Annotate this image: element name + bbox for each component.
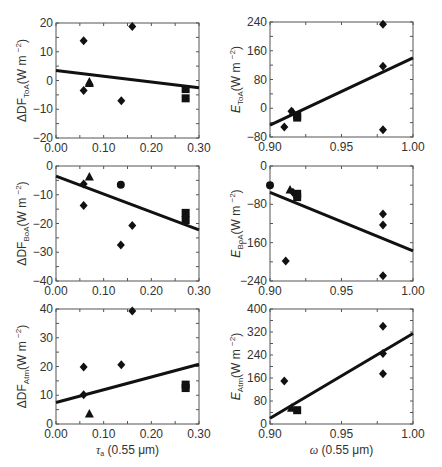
- y-label-close: ): [15, 39, 29, 43]
- y-tick-label: −30: [33, 245, 54, 259]
- data-point-circle: [117, 181, 125, 189]
- x-tick-label: 0.95: [330, 427, 354, 441]
- y-label-main: ΔDF: [15, 242, 29, 266]
- regression-line: [56, 176, 199, 230]
- y-label-sub: BoA: [236, 234, 245, 250]
- data-point-diamond: [379, 125, 387, 134]
- data-point-diamond: [379, 20, 387, 29]
- figure: 0.000.100.200.30−20−1001020ΔDFToA(W m −2…: [0, 0, 442, 467]
- x-tick-label: 0.20: [140, 284, 164, 298]
- x-tick-label: 0.20: [140, 427, 164, 441]
- x-tick-label: 0.95: [330, 284, 354, 298]
- y-label-sub: Atm: [236, 378, 245, 393]
- y-axis-label: ΔDFBoA(W m −2): [14, 181, 31, 265]
- y-tick-label: 0: [46, 159, 53, 173]
- x-axis-label: ω (0.55 μm): [310, 443, 373, 457]
- y-label-unit: (W m: [229, 59, 243, 91]
- y-label-unit: (W m: [229, 202, 243, 234]
- y-tick-label: 40: [40, 302, 54, 316]
- data-point-square: [182, 209, 190, 217]
- y-tick-label: 30: [40, 331, 54, 345]
- data-point-diamond: [80, 390, 88, 399]
- panel-dDF_ToA: 0.000.100.200.30−20−1001020ΔDFToA(W m −2…: [14, 16, 211, 155]
- y-tick-label: 10: [40, 388, 54, 402]
- x-tick-label: 0.20: [140, 141, 164, 155]
- data-point-diamond: [117, 241, 125, 250]
- y-label-unit: (W m: [229, 346, 243, 378]
- data-point-square: [293, 406, 301, 414]
- y-tick-label: 10: [40, 45, 54, 59]
- x-tick-label: 0.95: [330, 140, 354, 154]
- data-point-triangle: [85, 409, 94, 418]
- x-tick-label: 1.00: [401, 284, 425, 298]
- y-tick-label: 0: [46, 74, 53, 88]
- y-tick-label: −40: [33, 274, 54, 288]
- data-point-square: [182, 384, 190, 392]
- regression-line: [56, 70, 199, 87]
- y-label-sub: Atm: [22, 370, 31, 385]
- data-point-diamond: [379, 220, 387, 229]
- regression-line: [56, 364, 199, 402]
- data-point-square: [182, 94, 190, 102]
- data-point-diamond: [379, 271, 387, 280]
- y-label-unit: (W m: [15, 52, 29, 84]
- x-label-rest: (0.55 μm): [104, 443, 159, 457]
- x-label-main: ω: [310, 443, 318, 457]
- panel-dDF_BoA: 0.000.100.200.30−40−30−20−100ΔDFBoA(W m …: [14, 159, 211, 298]
- y-tick-label: 20: [40, 360, 54, 374]
- panel-E_Atm: 0.900.951.00080160240320400EAtm(W m −2)ω…: [228, 302, 425, 457]
- x-tick-label: 0.30: [187, 284, 211, 298]
- y-tick-label: −10: [33, 188, 54, 202]
- x-tick-label: 0.30: [187, 427, 211, 441]
- data-point-diamond: [128, 307, 136, 316]
- data-point-circle: [266, 181, 274, 189]
- y-tick-label: −80: [247, 197, 268, 211]
- y-tick-label: 0: [260, 159, 267, 173]
- data-point-diamond: [379, 369, 387, 378]
- y-tick-label: 160: [247, 371, 267, 385]
- y-label-main: ΔDF: [15, 98, 29, 122]
- x-label-rest: (0.55 μm): [318, 443, 373, 457]
- plot-frame: [270, 166, 413, 281]
- x-tick-label: 0.10: [92, 427, 116, 441]
- panel-E_BoA: 0.900.951.00−240−160−800EBoA(W m −2): [228, 159, 425, 298]
- y-label-unit: (W m: [15, 194, 29, 226]
- data-point-diamond: [117, 360, 125, 369]
- data-point-square: [293, 114, 301, 122]
- y-label-close: ): [15, 325, 29, 329]
- y-tick-label: 240: [247, 348, 267, 362]
- data-point-diamond: [282, 256, 290, 265]
- y-tick-label: −10: [33, 102, 54, 116]
- data-point-diamond: [280, 376, 288, 385]
- y-tick-label: 0: [260, 101, 267, 115]
- y-tick-label: 80: [254, 73, 268, 87]
- y-label-close: ): [15, 181, 29, 185]
- data-point-square: [182, 85, 190, 93]
- data-point-diamond: [80, 201, 88, 210]
- y-label-close: ): [229, 46, 243, 50]
- y-axis-label: EBoA(W m −2): [228, 189, 245, 257]
- y-tick-label: −80: [247, 130, 268, 144]
- data-point-triangle: [85, 78, 94, 87]
- y-tick-label: 240: [247, 15, 267, 29]
- data-point-square: [293, 193, 301, 201]
- y-axis-label: EAtm(W m −2): [228, 333, 245, 400]
- y-tick-label: 160: [247, 44, 267, 58]
- data-point-diamond: [280, 122, 288, 131]
- y-tick-label: 0: [260, 417, 267, 431]
- data-point-diamond: [128, 221, 136, 230]
- y-tick-label: −20: [33, 131, 54, 145]
- y-tick-label: 400: [247, 302, 267, 316]
- x-tick-label: 0.10: [92, 284, 116, 298]
- y-axis-label: ΔDFAtm(W m −2): [14, 325, 31, 408]
- data-point-diamond: [379, 209, 387, 218]
- data-point-diamond: [80, 36, 88, 45]
- y-tick-label: 0: [46, 417, 53, 431]
- panel-dDF_Atm: 0.000.100.200.30010203040ΔDFAtm(W m −2)τ…: [14, 302, 211, 457]
- data-point-triangle: [85, 172, 94, 181]
- y-label-sub: ToA: [236, 91, 245, 105]
- regression-line: [270, 192, 413, 250]
- x-tick-label: 0.10: [92, 141, 116, 155]
- y-label-main: ΔDF: [15, 384, 29, 408]
- y-tick-label: 80: [254, 394, 268, 408]
